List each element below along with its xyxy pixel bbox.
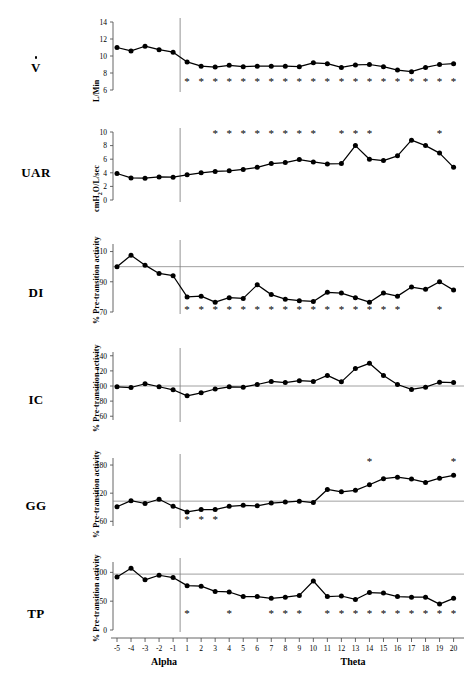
data-point [115, 504, 120, 509]
data-point [381, 476, 386, 481]
data-point [367, 482, 372, 487]
significance-asterisk: * [269, 607, 275, 619]
y-tick-label: 100 [96, 568, 108, 577]
significance-asterisk: * [184, 607, 190, 619]
data-point [339, 65, 344, 70]
x-tick-label: -3 [142, 644, 148, 653]
data-point [297, 499, 302, 504]
significance-asterisk: * [451, 455, 457, 467]
data-point [255, 594, 260, 599]
data-point [437, 62, 442, 67]
data-point [143, 176, 148, 181]
data-point [325, 61, 330, 66]
data-point [171, 175, 176, 180]
data-point [227, 168, 232, 173]
panel-gg: GG% Pre-transition activity60120180***** [0, 458, 473, 566]
figure-root: VL/Min68101214********************UARcmH… [0, 0, 473, 695]
y-tick-label: 8 [103, 141, 107, 150]
significance-asterisk: * [226, 607, 232, 619]
significance-asterisk: * [269, 75, 275, 87]
significance-asterisk: * [254, 303, 259, 315]
data-line [117, 140, 454, 178]
x-tick-label: 13 [352, 644, 360, 653]
significance-asterisk: * [240, 127, 246, 139]
x-tick-label: 3 [213, 644, 217, 653]
data-point [143, 263, 148, 268]
data-point [171, 273, 176, 278]
data-point [325, 373, 330, 378]
data-line [117, 475, 454, 512]
significance-asterisk: * [240, 75, 246, 87]
data-point [451, 61, 456, 66]
data-point [255, 282, 260, 287]
significance-asterisk: * [184, 75, 190, 87]
data-point [171, 575, 176, 580]
data-point [213, 169, 218, 174]
significance-asterisk: * [325, 607, 331, 619]
y-tick-label: 110 [96, 247, 107, 256]
x-tick-label: 8 [283, 644, 287, 653]
significance-asterisk: * [283, 127, 289, 139]
panel-uar: UARcmH2O/L/sec0246810************ [0, 132, 473, 240]
data-point [311, 579, 316, 584]
data-point [437, 151, 442, 156]
x-tick-label: 1 [185, 644, 189, 653]
significance-asterisk: * [395, 303, 401, 315]
data-point [213, 65, 218, 70]
significance-asterisk: * [311, 303, 317, 315]
data-point [297, 64, 302, 69]
data-point [199, 584, 204, 589]
significance-asterisk: * [254, 127, 259, 139]
significance-asterisk: * [198, 303, 204, 315]
significance-asterisk: * [451, 607, 457, 619]
data-point [367, 590, 372, 595]
x-tick-label: 6 [255, 644, 259, 653]
significance-asterisk: * [423, 607, 429, 619]
significance-asterisk: * [226, 127, 232, 139]
y-tick-label: 100 [96, 382, 108, 391]
plot-area-v-dot: 68101214******************** [113, 22, 472, 124]
panel-row-label-ic: IC [8, 392, 64, 408]
significance-asterisk: * [339, 127, 345, 139]
data-point [311, 159, 316, 164]
data-point [339, 161, 344, 166]
significance-asterisk: * [184, 513, 190, 525]
significance-asterisk: * [339, 607, 345, 619]
data-point [129, 566, 134, 571]
data-point [213, 589, 218, 594]
x-tick-label: 12 [338, 644, 346, 653]
significance-asterisk: * [395, 607, 401, 619]
data-point [339, 489, 344, 494]
data-point [129, 498, 134, 503]
data-point [269, 292, 274, 297]
data-point [395, 594, 400, 599]
data-point [395, 294, 400, 299]
data-point [283, 160, 288, 165]
y-tick-label: 140 [96, 352, 108, 361]
data-point [353, 488, 358, 493]
significance-asterisk: * [353, 303, 359, 315]
data-point [409, 69, 414, 74]
data-point [423, 143, 428, 148]
x-tick-label: 9 [297, 644, 301, 653]
data-point [171, 387, 176, 392]
significance-asterisk: * [367, 75, 373, 87]
data-point [143, 44, 148, 49]
x-tick-label: 5 [241, 644, 245, 653]
data-point [213, 387, 218, 392]
x-tick-label: 4 [227, 644, 231, 653]
significance-asterisk: * [283, 303, 289, 315]
x-tick-label: 2 [199, 644, 203, 653]
significance-asterisk: * [409, 75, 415, 87]
data-point [241, 296, 246, 301]
data-point [283, 64, 288, 69]
data-point [451, 596, 456, 601]
x-tick-label: 11 [324, 644, 331, 653]
data-point [269, 64, 274, 69]
y-tick-label: 10 [100, 52, 108, 61]
data-point [199, 64, 204, 69]
data-point [437, 279, 442, 284]
panel-row-label-tp: TP [8, 606, 64, 622]
significance-asterisk: * [311, 75, 317, 87]
data-point [157, 497, 162, 502]
